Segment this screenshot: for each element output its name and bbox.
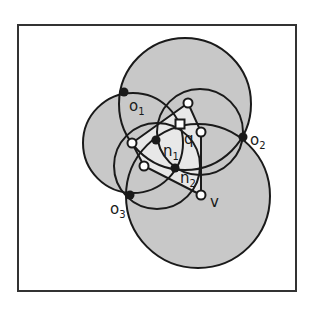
point-o2 xyxy=(239,133,248,142)
point-n2 xyxy=(171,164,180,173)
point-q-square xyxy=(176,120,185,129)
point-o1 xyxy=(120,88,129,97)
point-left xyxy=(128,139,137,148)
point-v xyxy=(197,191,206,200)
point-top xyxy=(184,99,193,108)
diagram-canvas: o1 o2 o3 n1 n2 q v xyxy=(0,0,309,310)
label-q: q xyxy=(184,130,194,148)
point-lower-left xyxy=(140,162,149,171)
label-v: v xyxy=(210,193,219,211)
point-n1 xyxy=(152,136,161,145)
point-right xyxy=(197,128,206,137)
point-o3 xyxy=(126,191,135,200)
